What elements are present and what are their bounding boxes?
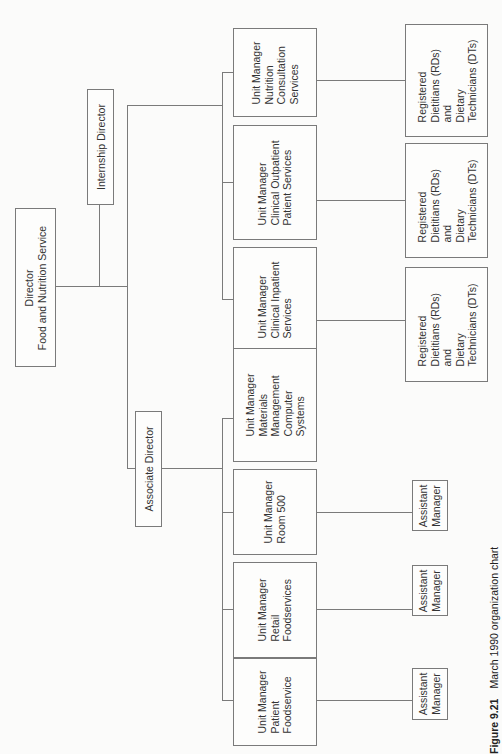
label-line: Technicians (DTs) — [465, 39, 478, 122]
assistant-manager-room-500: Assistant Manager — [412, 480, 448, 531]
label-line: Assistant — [417, 673, 430, 716]
connector-nutrition — [222, 72, 233, 73]
figure-title: March 1990 organization chart — [488, 547, 500, 689]
connector-retail — [222, 609, 233, 610]
staff-rds-dts-nutrition: Registered Dietitians (RDs) and Dietary … — [405, 24, 488, 137]
connector-associate-branch — [127, 468, 135, 469]
unit-manager-room-500: Unit Manager Room 500 — [233, 469, 317, 555]
label-line: Dietary — [453, 283, 466, 366]
associate-director-label: Associate Director — [142, 426, 155, 511]
label-line: Services — [281, 261, 294, 338]
label-line: Unit Manager — [244, 373, 257, 436]
connector-rd-3 — [316, 320, 405, 321]
org-chart: Director Food and Nutrition Service Inte… — [0, 0, 502, 754]
unit-manager-patient-foodservice: Unit Manager Patient Foodservice — [233, 658, 317, 746]
connector-room500 — [222, 512, 233, 513]
connector-clinical-branch — [127, 105, 222, 106]
label-line: and — [440, 283, 453, 366]
connector-rd-2 — [316, 200, 405, 201]
label-line: Dietitians (RDs) — [428, 159, 441, 242]
label-line: Registered — [415, 159, 428, 242]
label-line: Retail — [269, 578, 282, 641]
figure-caption: Figure 9.21March 1990 organization chart — [488, 547, 500, 754]
label-line: Technicians (DTs) — [465, 159, 478, 242]
staff-rds-dts-inpatient: Registered Dietitians (RDs) and Dietary … — [405, 267, 488, 382]
label-line: Manager — [430, 569, 443, 612]
label-line: Patient Services — [281, 140, 294, 225]
assistant-manager-patient: Assistant Manager — [412, 668, 448, 720]
label-line: Assistant — [417, 569, 430, 612]
connector-am-1 — [316, 512, 412, 513]
label-line: Unit Manager — [250, 41, 263, 104]
unit-manager-clinical-outpatient: Unit Manager Clinical Outpatient Patient… — [233, 125, 317, 240]
staff-rds-dts-outpatient: Registered Dietitians (RDs) and Dietary … — [405, 143, 488, 258]
connector-internship — [99, 204, 100, 286]
label-line: Foodservice — [281, 670, 294, 733]
label-line: Dietary — [453, 39, 466, 122]
label-line: Services — [288, 41, 301, 104]
assistant-manager-retail: Assistant Manager — [412, 565, 448, 616]
director-department: Food and Nutrition Service — [36, 225, 49, 349]
label-line: Unit Manager — [256, 261, 269, 338]
label-line: Management — [269, 373, 282, 436]
connector-patient — [222, 700, 233, 701]
label-line: Unit Manager — [256, 670, 269, 733]
connector-clinical-bracket — [222, 72, 223, 299]
label-line: Clinical Inpatient — [269, 261, 282, 338]
label-line: Computer — [281, 373, 294, 436]
connector-outpatient — [222, 182, 233, 183]
unit-manager-retail-foodservices: Unit Manager Retail Foodservices — [233, 562, 317, 658]
label-line: and — [440, 159, 453, 242]
connector-associate-out — [161, 468, 222, 469]
label-line: Dietitians (RDs) — [428, 39, 441, 122]
label-line: Patient — [269, 670, 282, 733]
label-line: Manager — [430, 484, 443, 527]
label-line: Registered — [415, 283, 428, 366]
label-line: Dietitians (RDs) — [428, 283, 441, 366]
connector-materials — [222, 418, 233, 419]
label-line: Materials — [256, 373, 269, 436]
associate-director-box: Associate Director — [135, 411, 162, 527]
label-line: Manager — [430, 673, 443, 716]
label-line: Unit Manager — [262, 480, 275, 543]
connector-inpatient — [222, 299, 233, 300]
label-line: Unit Manager — [256, 578, 269, 641]
label-line: Nutrition — [262, 41, 275, 104]
label-line: Consultation — [275, 41, 288, 104]
label-line: Assistant — [417, 484, 430, 527]
label-line: Systems — [294, 373, 307, 436]
internship-director-label: Internship Director — [94, 104, 107, 190]
label-line: and — [440, 39, 453, 122]
label-line: Technicians (DTs) — [465, 283, 478, 366]
label-line: Foodservices — [281, 578, 294, 641]
director-box: Director Food and Nutrition Service — [15, 208, 56, 367]
label-line: Clinical Outpatient — [269, 140, 282, 225]
unit-manager-nutrition-consultation: Unit Manager Nutrition Consultation Serv… — [233, 28, 317, 117]
connector-am-3 — [316, 700, 412, 701]
director-title: Director — [23, 225, 36, 349]
connector-director — [55, 286, 127, 287]
label-line: Registered — [415, 39, 428, 122]
unit-manager-materials-management: Unit Manager Materials Management Comput… — [233, 348, 317, 462]
label-line: Room 500 — [275, 480, 288, 543]
label-line: Unit Manager — [256, 140, 269, 225]
connector-am-2 — [316, 609, 412, 610]
connector-operations-bracket — [222, 418, 223, 700]
unit-manager-clinical-inpatient: Unit Manager Clinical Inpatient Services — [233, 247, 317, 352]
figure-label: Figure 9.21 — [488, 699, 500, 754]
connector-main-trunk — [127, 105, 128, 468]
connector-rd-1 — [316, 80, 405, 81]
internship-director-box: Internship Director — [87, 89, 114, 205]
label-line: Dietary — [453, 159, 466, 242]
